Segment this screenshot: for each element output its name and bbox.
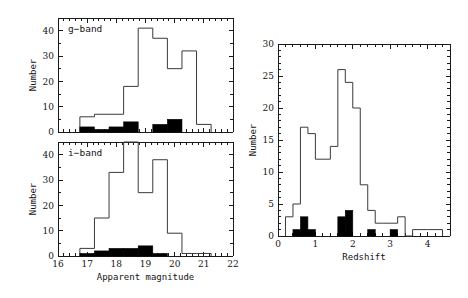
panel-g-band: 010203040Numberg−band: [28, 18, 233, 137]
i-band-xtick-label: 16: [52, 259, 64, 269]
histogram-figure: 010203040Numberg−band 161718192021220102…: [0, 0, 468, 298]
redshift-ticks: [278, 44, 450, 236]
i-band-ylabel: Number: [28, 182, 38, 215]
redshift-ylabel: Number: [248, 123, 258, 156]
g-band-filled-bar: [94, 129, 109, 132]
g-band-ytick-label: 40: [43, 26, 55, 36]
panel-redshift: 01234051015202530NumberRedshift: [248, 39, 450, 262]
g-band-panel-label: g−band: [68, 23, 102, 34]
i-band-panel-label: i−band: [68, 147, 102, 158]
panel-i-band: 16171819202122010203040NumberApparent ma…: [28, 142, 239, 282]
g-band-filled-bar: [167, 119, 182, 132]
i-band-filled-bar: [124, 248, 139, 256]
i-band-filled-bar: [94, 251, 109, 256]
redshift-filled-bar: [300, 217, 307, 236]
g-band-filled-bar: [153, 124, 168, 132]
i-band-xtick-label: 19: [140, 259, 152, 269]
redshift-ytick-label: 0: [268, 231, 274, 241]
g-band-outline-histogram: [80, 28, 211, 132]
i-band-xtick-label: 22: [227, 259, 238, 269]
g-band-ytick-label: 20: [43, 77, 55, 87]
redshift-xtick-label: 1: [313, 239, 319, 249]
redshift-filled-bar: [338, 217, 345, 236]
redshift-ytick-label: 5: [268, 199, 274, 209]
i-band-ticks: [58, 142, 233, 256]
redshift-ytick-label: 30: [263, 39, 275, 49]
g-band-ylabel: Number: [28, 58, 38, 91]
redshift-filled-bar: [368, 230, 375, 236]
g-band-ytick-label: 10: [43, 102, 55, 112]
redshift-filled-bar: [293, 230, 300, 236]
redshift-xlabel: Redshift: [342, 252, 385, 262]
i-band-filled-bar: [138, 246, 153, 256]
i-band-ytick-label: 0: [48, 251, 54, 261]
i-band-ytick-label: 40: [43, 150, 55, 160]
i-band-xtick-label: 21: [198, 259, 209, 269]
redshift-xtick-label: 4: [425, 239, 431, 249]
i-band-outline-histogram: [80, 142, 211, 256]
redshift-ytick-label: 25: [263, 71, 275, 81]
redshift-xtick-label: 2: [350, 239, 356, 249]
i-band-axes-frame: [58, 142, 233, 256]
i-band-ytick-label: 20: [43, 201, 55, 211]
i-band-xlabel: Apparent magnitude: [97, 272, 195, 282]
redshift-filled-bar: [345, 210, 352, 236]
redshift-filled-bar: [390, 230, 397, 236]
i-band-xtick-label: 18: [111, 259, 123, 269]
i-band-filled-bar: [109, 248, 124, 256]
redshift-xtick-label: 0: [275, 239, 281, 249]
g-band-filled-bar: [109, 127, 124, 132]
g-band-filled-bar: [124, 122, 139, 132]
g-band-ytick-label: 30: [43, 51, 55, 61]
i-band-ytick-label: 30: [43, 175, 55, 185]
redshift-xtick-label: 3: [387, 239, 393, 249]
redshift-filled-bar: [308, 230, 315, 236]
g-band-ytick-label: 0: [48, 127, 54, 137]
redshift-ytick-label: 10: [263, 167, 275, 177]
g-band-axes-frame: [58, 18, 233, 132]
i-band-filled-bar: [153, 253, 168, 256]
i-band-ytick-label: 10: [43, 226, 55, 236]
i-band-xtick-label: 17: [81, 259, 93, 269]
g-band-ticks: [58, 18, 233, 132]
redshift-axes-frame: [278, 44, 450, 236]
g-band-filled-bar: [80, 127, 95, 132]
redshift-outline-histogram: [285, 70, 442, 236]
i-band-xtick-label: 20: [169, 259, 181, 269]
redshift-ytick-label: 15: [263, 135, 275, 145]
figure-canvas: 010203040Numberg−band 161718192021220102…: [0, 0, 468, 298]
i-band-filled-bar: [80, 253, 95, 256]
redshift-ytick-label: 20: [263, 103, 275, 113]
